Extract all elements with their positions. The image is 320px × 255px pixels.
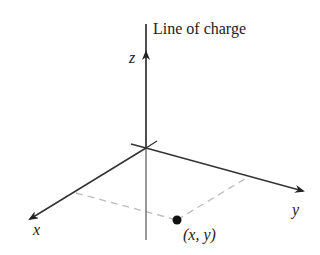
point-marker [173, 216, 182, 225]
z-axis-label: z [128, 49, 136, 66]
y-axis [146, 148, 303, 191]
x-axis [30, 148, 146, 219]
coordinate-diagram: Line of charge z y x (x, y) [0, 0, 320, 255]
point-label: (x, y) [183, 226, 216, 244]
projection-lines [76, 177, 248, 220]
line-of-charge-label: Line of charge [153, 20, 246, 38]
y-axis-label: y [290, 201, 300, 219]
x-axis-label: x [32, 221, 40, 238]
